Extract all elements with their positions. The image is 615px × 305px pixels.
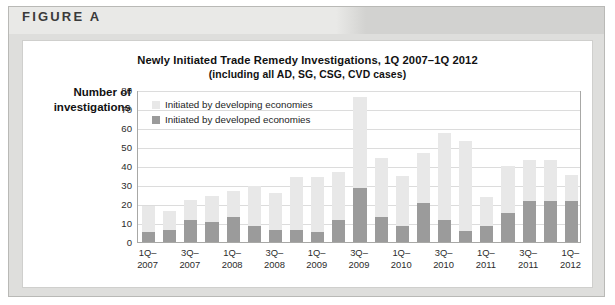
x-tick-label-quarter: 3Q– bbox=[519, 247, 537, 258]
bar-group bbox=[353, 97, 366, 242]
bar-segment-developed bbox=[353, 188, 366, 242]
y-tick-label: 10 bbox=[106, 219, 132, 229]
x-tick-label: 1Q–2011 bbox=[465, 247, 507, 270]
x-tick-label: 3Q–2011 bbox=[507, 247, 549, 270]
legend-label-developed: Initiated by developed economies bbox=[165, 114, 310, 125]
bar-segment-developed bbox=[205, 222, 218, 242]
x-tick-label: 1Q–2012 bbox=[549, 247, 591, 270]
bar-group bbox=[459, 141, 472, 242]
bar-group bbox=[311, 177, 324, 242]
bar-group bbox=[184, 200, 197, 242]
bar-segment-developed bbox=[269, 230, 282, 242]
bar-segment-developing bbox=[163, 211, 176, 230]
bar-segment-developed bbox=[248, 226, 261, 242]
x-tick-label-quarter: 1Q– bbox=[392, 247, 410, 258]
x-tick-label: 1Q–2008 bbox=[211, 247, 253, 270]
y-tick-label: 50 bbox=[106, 143, 132, 153]
x-tick-label-year: 2008 bbox=[211, 259, 253, 271]
bar-segment-developed bbox=[142, 232, 155, 242]
legend-item-developing: Initiated by developing economies bbox=[152, 98, 313, 111]
x-tick-label: 3Q–2009 bbox=[338, 247, 380, 270]
y-tick-label: 80 bbox=[106, 86, 132, 96]
bar-segment-developed bbox=[332, 220, 345, 242]
bar-segment-developed bbox=[184, 220, 197, 242]
x-tick-label: 1Q–2010 bbox=[380, 247, 422, 270]
x-tick-label-quarter: 1Q– bbox=[477, 247, 495, 258]
bar-group bbox=[332, 172, 345, 242]
bar-segment-developing bbox=[438, 133, 451, 220]
bar-segment-developing bbox=[544, 160, 557, 201]
x-tick-label-year: 2009 bbox=[338, 259, 380, 271]
bar-segment-developed bbox=[227, 217, 240, 242]
bar-segment-developing bbox=[311, 177, 324, 231]
bar-group bbox=[396, 176, 409, 242]
bar-segment-developed bbox=[480, 226, 493, 242]
y-tick-label: 40 bbox=[106, 162, 132, 172]
bar-segment-developed bbox=[290, 230, 303, 242]
chart-title-main: Newly Initiated Trade Remedy Investigati… bbox=[137, 54, 478, 66]
figure-label: FIGURE A bbox=[22, 9, 101, 24]
legend-swatch-developed-icon bbox=[152, 116, 160, 124]
y-tick-label: 60 bbox=[106, 124, 132, 134]
bar-segment-developing bbox=[290, 177, 303, 229]
x-tick-label: 3Q–2007 bbox=[169, 247, 211, 270]
figure-root: FIGURE A Newly Initiated Trade Remedy In… bbox=[0, 0, 615, 305]
y-tick-label: 20 bbox=[106, 200, 132, 210]
bar-segment-developed bbox=[163, 230, 176, 242]
x-tick-label-quarter: 3Q– bbox=[266, 247, 284, 258]
x-tick-label-quarter: 1Q– bbox=[139, 247, 157, 258]
bar-group bbox=[480, 197, 493, 242]
x-tick-label: 1Q–2007 bbox=[127, 247, 169, 270]
bar-segment-developed bbox=[459, 231, 472, 242]
bar-group bbox=[163, 211, 176, 242]
bar-segment-developed bbox=[375, 217, 388, 242]
bar-segment-developing bbox=[480, 197, 493, 226]
bar-group bbox=[290, 177, 303, 242]
x-tick-label-year: 2009 bbox=[296, 259, 338, 271]
bar-segment-developing bbox=[184, 200, 197, 220]
x-tick-label: 3Q–2010 bbox=[423, 247, 465, 270]
bar-group bbox=[544, 160, 557, 242]
bar-group bbox=[438, 133, 451, 242]
bar-group bbox=[142, 206, 155, 242]
x-tick-label: 3Q–2008 bbox=[253, 247, 295, 270]
x-tick-label-quarter: 3Q– bbox=[350, 247, 368, 258]
bar-group bbox=[501, 166, 514, 242]
bar-group bbox=[269, 193, 282, 242]
legend-swatch-developing-icon bbox=[152, 101, 160, 109]
x-tick-label-year: 2012 bbox=[549, 259, 591, 271]
bar-segment-developed bbox=[501, 213, 514, 242]
legend-item-developed: Initiated by developed economies bbox=[152, 113, 313, 126]
bar-segment-developed bbox=[565, 201, 578, 242]
bar-group bbox=[375, 158, 388, 242]
bar-segment-developed bbox=[311, 232, 324, 242]
x-tick-label-year: 2011 bbox=[507, 259, 549, 271]
bar-segment-developing bbox=[332, 172, 345, 220]
bar-group bbox=[523, 160, 536, 242]
x-tick-label-quarter: 1Q– bbox=[562, 247, 580, 258]
bar-group bbox=[227, 191, 240, 242]
bar-segment-developing bbox=[353, 97, 366, 188]
bar-segment-developing bbox=[227, 191, 240, 218]
x-tick-label-quarter: 3Q– bbox=[181, 247, 199, 258]
bar-group bbox=[248, 186, 261, 242]
chart-legend: Initiated by developing economies Initia… bbox=[152, 98, 313, 128]
x-tick-label-year: 2011 bbox=[465, 259, 507, 271]
y-tick-label: 70 bbox=[106, 105, 132, 115]
x-tick-label-year: 2007 bbox=[169, 259, 211, 271]
x-tick-label-year: 2010 bbox=[380, 259, 422, 271]
chart-card: Newly Initiated Trade Remedy Investigati… bbox=[22, 40, 593, 288]
x-tick-label-quarter: 3Q– bbox=[435, 247, 453, 258]
bar-segment-developed bbox=[417, 203, 430, 242]
bar-segment-developing bbox=[375, 158, 388, 217]
bar-segment-developing bbox=[565, 175, 578, 202]
x-tick-label: 1Q–2009 bbox=[296, 247, 338, 270]
bar-segment-developed bbox=[544, 201, 557, 242]
bar-segment-developing bbox=[501, 166, 514, 213]
bar-segment-developing bbox=[396, 176, 409, 225]
bar-segment-developing bbox=[205, 196, 218, 222]
bar-segment-developing bbox=[142, 206, 155, 232]
bar-segment-developing bbox=[459, 141, 472, 230]
bar-segment-developing bbox=[269, 193, 282, 230]
x-tick-label-quarter: 1Q– bbox=[308, 247, 326, 258]
